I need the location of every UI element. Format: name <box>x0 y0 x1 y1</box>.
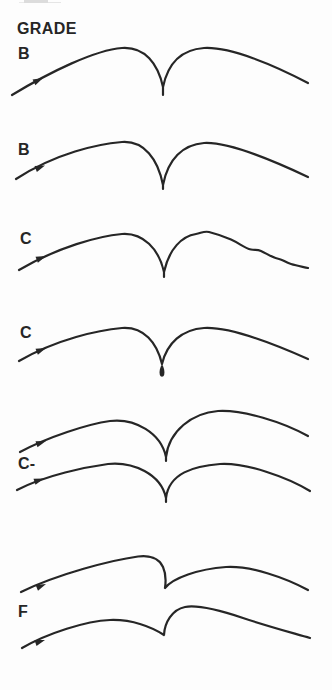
direction-arrow-icon <box>35 166 46 173</box>
grade-label-5: C- <box>18 456 35 472</box>
figure-page: GRADE <box>0 0 332 690</box>
curve-figure-6-grade-f <box>21 556 310 648</box>
stroke-path <box>12 48 308 95</box>
stroke-path <box>16 142 308 189</box>
stroke-path-upper <box>21 556 308 592</box>
direction-arrow-icon <box>36 256 47 263</box>
direction-arrow-icon <box>36 441 47 447</box>
grade-label-4: C <box>20 325 32 341</box>
curve-figure-3-grade-c <box>19 232 308 277</box>
grade-label-2: B <box>18 142 30 158</box>
curve-figure-4-grade-c <box>19 328 308 377</box>
ink-blob <box>160 364 165 377</box>
curve-figure-2-grade-b <box>16 142 308 189</box>
direction-arrow-icon <box>36 348 47 355</box>
curve-figure-5-grade-c-minus <box>17 411 310 502</box>
grade-label-1: B <box>18 46 30 62</box>
direction-arrow-icon <box>35 640 46 646</box>
curves-canvas <box>0 0 332 690</box>
direction-arrow-icon <box>33 78 43 85</box>
direction-arrow-icon <box>36 584 46 591</box>
stroke-path-lower <box>17 464 310 502</box>
stroke-path <box>19 328 308 364</box>
curve-figure-1-grade-b <box>12 48 308 95</box>
stroke-path <box>19 232 308 277</box>
direction-arrow-icon <box>34 479 45 485</box>
grade-label-3: C <box>20 231 32 247</box>
grade-label-6: F <box>18 604 28 620</box>
stroke-path-upper <box>20 411 308 461</box>
stroke-path-lower <box>22 606 310 648</box>
